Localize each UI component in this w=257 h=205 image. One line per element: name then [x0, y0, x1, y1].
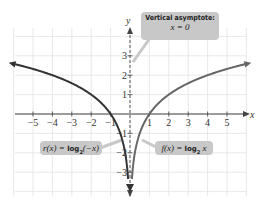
asymptote-callout-pointer: [133, 38, 150, 62]
curve-r-arrow-icon: [9, 61, 17, 67]
asymptote-callout-equation: x = 0: [141, 23, 219, 32]
y-axis-label: y: [125, 15, 131, 26]
x-tick-label: 5: [225, 117, 230, 128]
y-tick-label: 1: [122, 89, 127, 100]
y-axis-arrow-icon-up: [127, 27, 133, 34]
x-tick-label: 2: [166, 117, 171, 128]
r-label-log: log: [67, 145, 79, 153]
y-tick-label: 3: [122, 50, 127, 61]
x-tick-label: 1: [147, 117, 152, 128]
log-graph-figure: −5−4−3−2−112345−3−2−1123 x y Vertical as…: [0, 0, 257, 205]
curve-f-arrow-icon: [244, 61, 252, 67]
x-tick-label: −3: [66, 117, 77, 128]
f-label-prefix: f(x) =: [161, 143, 184, 153]
x-tick-label: −2: [86, 117, 97, 128]
asymptote-callout: Vertical asymptote: x = 0: [141, 12, 219, 40]
y-tick-label: −3: [116, 167, 127, 178]
x-tick-label: 4: [205, 117, 210, 128]
r-label-prefix: r(x) =: [43, 143, 67, 153]
f-label-log: log: [185, 145, 197, 153]
x-tick-label: −5: [28, 117, 39, 128]
curves-bottom-arrow-icon: [126, 184, 134, 192]
y-tick-label: 2: [122, 70, 127, 81]
r-function-label: r(x) = log2(−x): [40, 141, 102, 155]
f-function-label: f(x) = log2 x: [155, 141, 213, 155]
x-tick-label: −4: [47, 117, 58, 128]
x-tick-label: 3: [186, 117, 191, 128]
r-label-arg: (−x): [83, 143, 99, 153]
f-label-arg: x: [200, 143, 206, 153]
x-axis-label: x: [249, 109, 255, 120]
